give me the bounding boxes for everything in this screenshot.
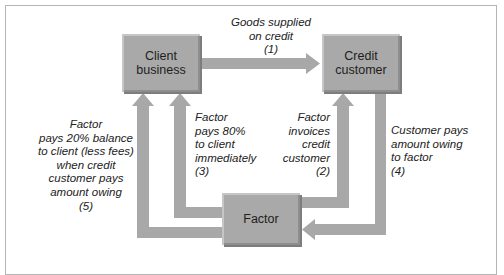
label-line: Customer pays: [391, 124, 491, 138]
label-line: immediately: [195, 152, 275, 166]
label-customer-pays: Customer pays amount owing to factor (4): [391, 124, 491, 178]
label-line: to factor: [391, 151, 491, 165]
label-line: (1): [222, 43, 320, 57]
label-line: to client (less fees): [36, 145, 136, 159]
node-label-line: Client: [136, 49, 185, 63]
label-line: amount owing: [391, 138, 491, 152]
label-line: to client: [195, 138, 275, 152]
label-line: Goods supplied: [222, 16, 320, 30]
label-line: when credit: [36, 159, 136, 173]
label-factor-invoices: Factor invoices credit customer (2): [268, 111, 330, 179]
label-line: (4): [391, 165, 491, 179]
label-line: (5): [36, 200, 136, 214]
label-line: credit: [268, 138, 330, 152]
label-goods-supplied: Goods supplied on credit (1): [222, 16, 320, 57]
label-factor-pays-20: Factor pays 20% balance to client (less …: [36, 118, 136, 213]
node-label-line: business: [136, 63, 185, 77]
label-line: customer: [268, 152, 330, 166]
label-line: invoices: [268, 125, 330, 139]
label-line: Factor: [268, 111, 330, 125]
node-client-business: Client business: [122, 34, 200, 92]
node-credit-customer: Credit customer: [322, 34, 400, 92]
label-line: on credit: [222, 30, 320, 44]
label-line: pays 80%: [195, 125, 275, 139]
label-line: (3): [195, 165, 275, 179]
label-line: (2): [268, 165, 330, 179]
label-line: customer pays: [36, 172, 136, 186]
label-line: Factor: [36, 118, 136, 132]
label-factor-pays-80: Factor pays 80% to client immediately (3…: [195, 111, 275, 179]
node-factor: Factor: [222, 193, 300, 245]
node-label-line: customer: [335, 63, 386, 77]
node-label-line: Credit: [335, 49, 386, 63]
label-line: pays 20% balance: [36, 132, 136, 146]
label-line: amount owing: [36, 186, 136, 200]
label-line: Factor: [195, 111, 275, 125]
node-label-line: Factor: [243, 212, 278, 226]
